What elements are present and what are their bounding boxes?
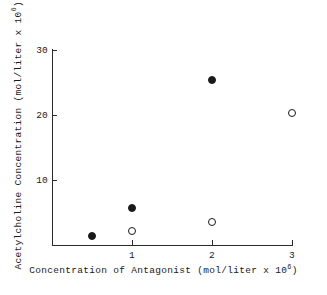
scatter-plot-figure: 10 20 30 1 2 3 Concentration of Antagoni… [0, 0, 327, 295]
y-axis-title-text: Acetylcholine Concentration (mol/liter x… [13, 11, 24, 269]
x-axis-title-suffix: ) [292, 265, 298, 276]
y-axis-line [52, 49, 53, 246]
x-axis-title-text: Concentration of Antagonist (mol/liter x… [29, 265, 287, 276]
data-point-open-circles-0 [128, 227, 136, 235]
x-axis-tick-2 [212, 240, 213, 245]
y-axis-tick-label-20: 20 [22, 110, 48, 121]
y-axis-tick-30 [52, 50, 57, 51]
plot-area: 10 20 30 1 2 3 [0, 0, 327, 295]
data-point-filled-circles-2 [208, 76, 216, 84]
data-point-filled-circles-1 [128, 204, 136, 212]
y-axis-tick-20 [52, 115, 57, 116]
x-axis-tick-label-1: 1 [122, 250, 142, 261]
data-point-open-circles-1 [208, 218, 216, 226]
x-axis-tick-1 [132, 240, 133, 245]
y-axis-tick-label-30: 30 [22, 45, 48, 56]
data-point-open-circles-2 [288, 109, 296, 117]
x-axis-tick-label-2: 2 [202, 250, 222, 261]
y-axis-title-suffix: ) [13, 1, 24, 7]
y-axis-title-exponent: 6 [10, 7, 18, 11]
data-point-filled-circles-0 [88, 232, 96, 240]
y-axis-tick-10 [52, 180, 57, 181]
x-axis-tick-label-3: 3 [282, 250, 302, 261]
x-axis-tick-3 [292, 240, 293, 245]
y-axis-title: Acetylcholine Concentration (mol/liter x… [13, 12, 24, 270]
y-axis-tick-label-10: 10 [22, 175, 48, 186]
x-axis-line [52, 245, 293, 246]
x-axis-title: Concentration of Antagonist (mol/liter x… [0, 265, 327, 276]
